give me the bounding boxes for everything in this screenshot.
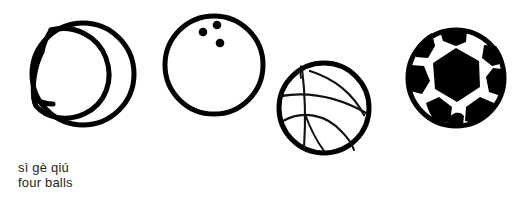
basketball-seam-bottom — [305, 114, 324, 151]
soccer-ball-drawing — [404, 21, 510, 137]
soccer-ball-patch-upper-left — [416, 33, 435, 58]
basketball-seam-lower-left — [283, 115, 342, 132]
tennis-ball-figure — [26, 16, 140, 132]
caption: sì gè qiú four balls — [18, 160, 73, 190]
bowling-ball-hole-left — [199, 28, 208, 37]
basketball-seam-vertical — [302, 69, 305, 148]
basketball-drawing — [274, 58, 374, 158]
soccer-ball-patch-lower-right — [465, 97, 494, 124]
bowling-ball-hole-lower — [216, 39, 225, 48]
soccer-ball-patch-bottom — [449, 113, 464, 126]
bowling-ball-outline — [165, 16, 263, 114]
basketball-figure — [274, 58, 374, 158]
illustration-page: sì gè qiú four balls — [0, 0, 526, 202]
soccer-ball-patch-right — [486, 68, 504, 96]
soccer-ball-patch-upper-right — [482, 45, 504, 66]
basketball-seam-top-stub — [300, 66, 301, 78]
soccer-ball-patch-center — [433, 48, 480, 102]
soccer-ball-figure — [404, 21, 510, 137]
soccer-ball-patch-left — [409, 65, 430, 94]
tennis-ball-seam-tail-upper — [42, 30, 51, 52]
bowling-ball-hole-top — [213, 21, 222, 30]
caption-english: four balls — [18, 175, 73, 190]
tennis-ball-drawing — [26, 16, 140, 132]
soccer-ball-patch-top — [440, 28, 467, 46]
bowling-ball-figure — [162, 10, 268, 122]
bowling-ball-drawing — [162, 10, 268, 122]
caption-pinyin: sì gè qiú — [18, 160, 73, 175]
